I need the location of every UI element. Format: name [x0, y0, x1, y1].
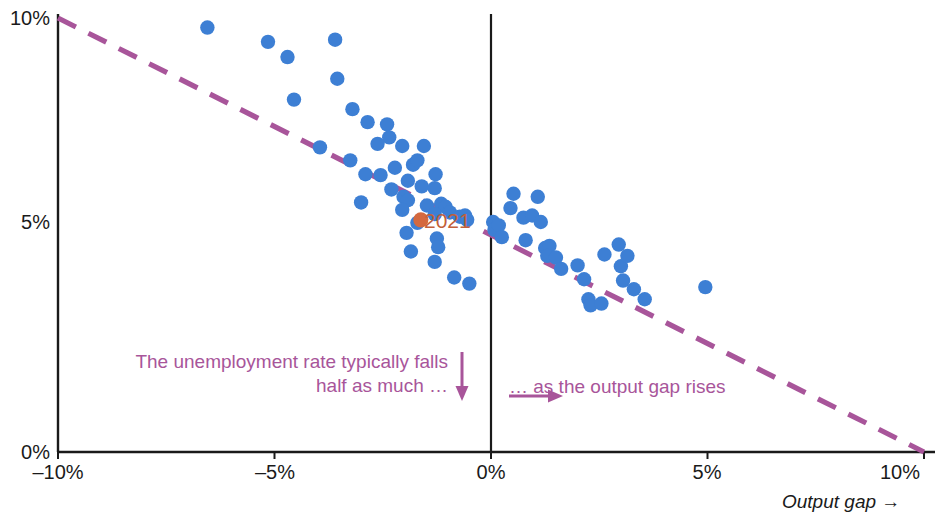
- down-arrow-head: [456, 386, 469, 401]
- scatter-point: [503, 201, 517, 215]
- scatter-point: [328, 33, 342, 47]
- scatter-point: [627, 282, 641, 296]
- scatter-point: [428, 255, 442, 269]
- scatter-point: [534, 215, 548, 229]
- right-annotation-line1: … as the output gap rises: [509, 375, 726, 399]
- scatter-point: [358, 167, 372, 181]
- y-tick-label-10: 10%: [0, 8, 50, 28]
- left-annotation-line1: The unemployment rate typically falls: [100, 350, 448, 374]
- left-annotation-line2: half as much …: [100, 374, 448, 398]
- scatter-point: [370, 137, 384, 151]
- scatter-point: [200, 20, 214, 34]
- scatter-point: [401, 174, 415, 188]
- scatter-point: [343, 153, 357, 167]
- scatter-point: [431, 240, 445, 254]
- scatter-chart: 10% 5% 0% –10% –5% 0% 5% 10% Output gap …: [0, 0, 935, 518]
- y-tick-label-5: 5%: [0, 212, 50, 232]
- x-tick-label-10: 10%: [866, 462, 934, 482]
- scatter-point: [417, 139, 431, 153]
- scatter-point: [612, 237, 626, 251]
- x-tick-label-neg5: –5%: [225, 462, 325, 482]
- scatter-point: [384, 182, 398, 196]
- scatter-point: [698, 280, 712, 294]
- scatter-point: [447, 270, 461, 284]
- scatter-point: [395, 203, 409, 217]
- scatter-point: [554, 262, 568, 276]
- x-axis-title: Output gap →: [782, 492, 900, 511]
- scatter-point: [462, 276, 476, 290]
- scatter-point: [373, 168, 387, 182]
- scatter-point: [395, 139, 409, 153]
- scatter-point: [360, 115, 374, 129]
- scatter-point: [638, 292, 652, 306]
- scatter-point: [577, 272, 591, 286]
- scatter-point: [354, 195, 368, 209]
- x-tick-label-5: 5%: [657, 462, 757, 482]
- scatter-point: [410, 153, 424, 167]
- scatter-point: [531, 190, 545, 204]
- scatter-point: [388, 161, 402, 175]
- scatter-point: [415, 179, 429, 193]
- scatter-point: [506, 187, 520, 201]
- x-tick-label-neg10: –10%: [8, 462, 108, 482]
- x-tick-label-0: 0%: [441, 462, 541, 482]
- right-annotation: … as the output gap rises: [509, 375, 726, 399]
- scatter-points-group: [200, 20, 712, 312]
- scatter-point: [330, 72, 344, 86]
- scatter-point: [380, 117, 394, 131]
- scatter-point: [518, 233, 532, 247]
- scatter-point: [495, 230, 509, 244]
- scatter-point: [428, 167, 442, 181]
- scatter-point: [280, 50, 294, 64]
- scatter-point: [399, 226, 413, 240]
- scatter-point: [313, 140, 327, 154]
- scatter-point: [345, 102, 359, 116]
- y-tick-label-0: 0%: [0, 442, 50, 462]
- scatter-point: [597, 247, 611, 261]
- scatter-point: [620, 249, 634, 263]
- scatter-point: [404, 244, 418, 258]
- scatter-point: [261, 35, 275, 49]
- left-annotation: The unemployment rate typically falls ha…: [100, 350, 448, 399]
- highlight-point-label: 2021: [424, 210, 471, 231]
- scatter-point: [570, 258, 584, 272]
- scatter-point: [594, 296, 608, 310]
- scatter-point: [428, 181, 442, 195]
- plot-area: [0, 0, 935, 518]
- scatter-point: [287, 92, 301, 106]
